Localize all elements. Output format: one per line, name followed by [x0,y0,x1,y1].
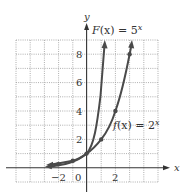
y-tick-8: 8 [76,49,82,60]
exponential-graph: x y −2 0 2 8 6 4 2 F(x) = 5x f(x) = 2x [0,0,188,196]
x-tick-0: 0 [75,172,81,183]
x-tick-neg2: −2 [51,172,66,183]
x-axis-label: x [174,162,180,173]
y-axis-arrow-icon [84,23,89,30]
label-f-2-pow-x: f(x) = 2x [112,118,160,132]
point-3 [127,52,131,56]
y-tick-6: 6 [76,77,82,88]
point-0 [84,151,88,155]
x-tick-2: 2 [112,172,118,183]
curve-2-pow-x-arrow-icon [128,40,134,49]
y-tick-4: 4 [76,106,82,117]
point-neg1 [71,159,75,163]
point-neg2 [56,162,60,166]
curve-5-pow-x-arrow-icon [102,40,108,49]
y-tick-2: 2 [76,134,82,145]
y-axis-label: y [83,11,90,22]
label-F-5-pow-x: F(x) = 5x [91,23,143,37]
point-2 [113,109,117,113]
point-1 [99,137,103,141]
x-axis-arrow-icon [163,165,170,170]
